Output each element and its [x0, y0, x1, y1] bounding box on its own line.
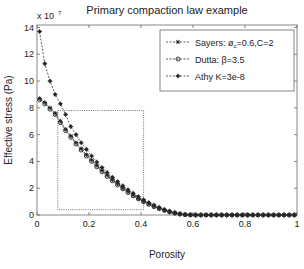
x-tick-label: 1: [294, 219, 299, 229]
legend-label: Athy K=3e-8: [195, 72, 245, 82]
y-tick-label: 10: [24, 76, 34, 86]
x-tick-label: 0.4: [135, 219, 148, 229]
x-axis-label: Porosity: [149, 249, 185, 260]
y-tick-label: 8: [29, 103, 34, 113]
y-tick-label: 4: [29, 156, 34, 166]
x-tick-label: 0.6: [187, 219, 200, 229]
chart-title: Primary compaction law example: [86, 4, 247, 16]
star-marker-icon: [176, 40, 180, 44]
y-tick-label: 6: [29, 130, 34, 140]
legend-label: Dutta: β=3.5: [195, 55, 244, 65]
x-tick-label: 0.2: [83, 219, 96, 229]
y-axis-label: Effective stress (Pa): [3, 75, 14, 164]
x-tick-label: 0: [34, 219, 39, 229]
compaction-chart: Primary compaction law example x 10 7 00…: [0, 0, 304, 269]
y-tick-label: 14: [24, 23, 34, 33]
y-exponent-base: x 10: [37, 11, 54, 21]
y-tick-label: 0: [29, 210, 34, 220]
y-tick-label: 2: [29, 183, 34, 193]
x-tick-label: 0.8: [239, 219, 252, 229]
legend: Sayers: øc=0.6,C=2Dutta: β=3.5Athy K=3e-…: [160, 30, 294, 91]
y-tick-label: 12: [24, 49, 34, 59]
